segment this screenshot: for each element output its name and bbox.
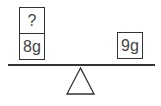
fulcrum-triangle-icon [0,0,161,106]
